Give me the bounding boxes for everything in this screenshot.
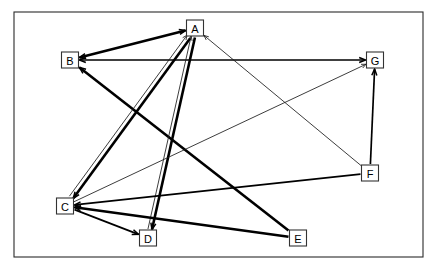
node-b[interactable]: B (62, 52, 79, 68)
node-label: C (61, 201, 69, 213)
edge-line (152, 37, 195, 229)
edge-a-d[interactable] (151, 37, 195, 229)
edge-layer (69, 30, 376, 237)
edge-a-b[interactable] (80, 30, 186, 59)
node-label: E (294, 233, 301, 245)
edge-line (204, 35, 361, 165)
node-label: D (144, 233, 152, 245)
edge-f-g[interactable] (370, 69, 376, 164)
edge-f-a[interactable] (204, 35, 361, 165)
edge-b-g[interactable] (80, 57, 366, 62)
edge-line (80, 30, 186, 57)
node-c[interactable]: C (57, 198, 74, 214)
edge-c-d[interactable] (75, 210, 139, 235)
diagram-canvas: ABCDEFG (0, 0, 437, 270)
edge-f-c[interactable] (75, 174, 361, 207)
node-label: G (371, 55, 380, 67)
edge-line (75, 210, 139, 235)
node-label: A (191, 23, 199, 35)
node-a[interactable]: A (187, 20, 204, 36)
edge-line (370, 69, 374, 164)
node-label: B (66, 55, 73, 67)
node-e[interactable]: E (290, 230, 307, 246)
graph-svg: ABCDEFG (0, 0, 437, 270)
edge-line (75, 174, 361, 205)
node-f[interactable]: F (362, 165, 379, 181)
diagram-frame (14, 12, 423, 257)
node-d[interactable]: D (140, 230, 157, 246)
node-label: F (367, 168, 374, 180)
node-g[interactable]: G (367, 52, 384, 68)
